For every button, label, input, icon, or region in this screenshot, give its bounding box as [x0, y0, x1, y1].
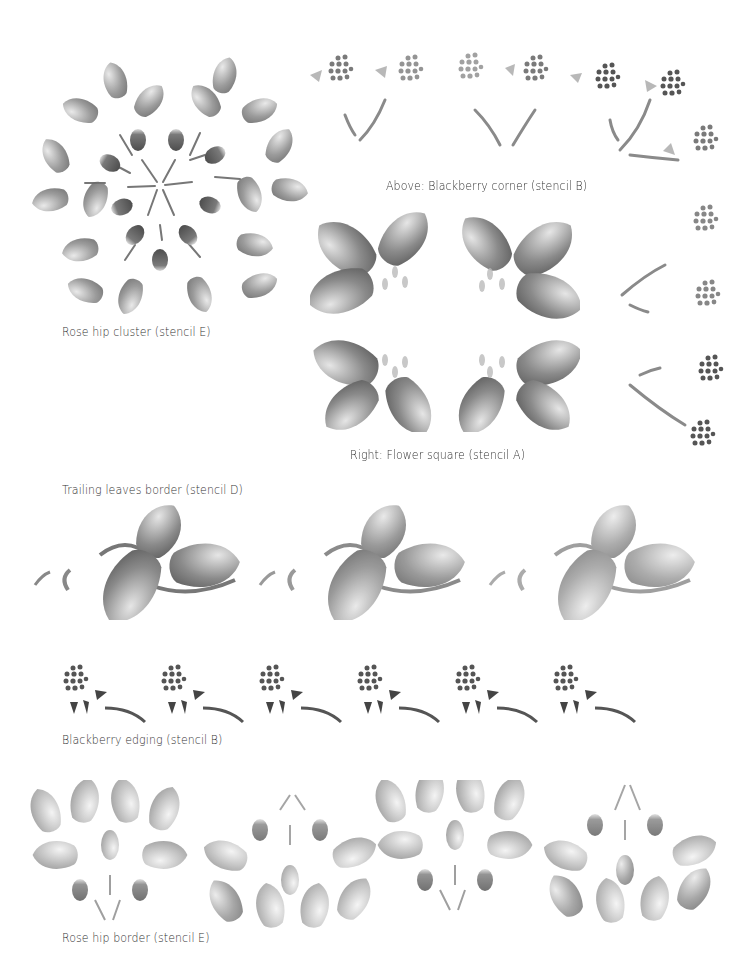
flower-square-artwork	[310, 212, 580, 432]
caption-trailing-leaves: Trailing leaves border (stencil D)	[62, 482, 243, 497]
rose-hip-border-artwork	[15, 780, 735, 930]
caption-rose-hip-border: Rose hip border (stencil E)	[62, 930, 210, 945]
rose-hip-cluster-artwork	[20, 50, 310, 320]
trailing-leaves-artwork	[30, 500, 720, 620]
caption-blackberry-corner: Above: Blackberry corner (stencil B)	[386, 178, 587, 193]
caption-blackberry-edging: Blackberry edging (stencil B)	[62, 732, 222, 747]
caption-rose-hip-cluster: Rose hip cluster (stencil E)	[62, 324, 211, 339]
blackberry-edging-artwork	[55, 660, 675, 730]
caption-flower-square: Right: Flower square (stencil A)	[350, 447, 525, 462]
